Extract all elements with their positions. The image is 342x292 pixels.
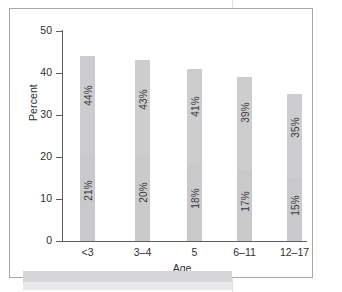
redacted-caption-bar-shadow — [23, 282, 232, 290]
y-axis-title: Percent — [27, 84, 39, 121]
bar-label-lower: 17% — [239, 191, 250, 212]
bar-label-total: 44% — [82, 85, 93, 106]
x-tick-label-6-11: 6–11 — [233, 246, 256, 259]
bar-label-total: 39% — [239, 102, 250, 123]
bar-age-5[interactable]: 41% 18% — [187, 69, 202, 241]
bar-segment-upper: 41% — [187, 69, 202, 166]
bar-age-12-17[interactable]: 35% 15% — [287, 94, 302, 241]
y-tick-40: 40 — [56, 73, 63, 74]
bar-segment-lower: 21% — [80, 153, 95, 241]
x-axis-line — [62, 241, 307, 242]
y-tick-label-50: 50 — [40, 24, 52, 37]
y-tick-0: 0 — [56, 241, 63, 242]
bar-label-lower: 15% — [289, 195, 300, 216]
bar-segment-upper: 35% — [287, 94, 302, 178]
y-tick-label-10: 10 — [40, 192, 52, 205]
bar-age-6-11[interactable]: 39% 17% — [237, 77, 252, 241]
x-tick-label-3-4: 3–4 — [134, 246, 152, 259]
bar-label-lower: 20% — [137, 182, 148, 203]
bar-age-3-4[interactable]: 43% 20% — [135, 60, 150, 241]
bar-segment-upper: 44% — [80, 56, 95, 153]
bar-label-lower: 21% — [82, 180, 93, 201]
x-tick-label-12-17: 12–17 — [280, 246, 309, 259]
bar-label-total: 43% — [137, 90, 148, 111]
bar-label-lower: 18% — [189, 189, 200, 210]
y-tick-20: 20 — [56, 157, 63, 158]
bar-segment-lower: 18% — [187, 165, 202, 241]
bar-label-total: 41% — [189, 96, 200, 117]
bar-segment-lower: 20% — [135, 157, 150, 241]
bar-segment-lower: 17% — [237, 170, 252, 241]
x-tick-label-5: 5 — [192, 246, 198, 259]
redacted-caption-bar — [23, 271, 232, 282]
y-tick-label-30: 30 — [40, 108, 52, 121]
y-axis-line — [62, 30, 63, 242]
y-tick-label-20: 20 — [40, 150, 52, 163]
y-tick-10: 10 — [56, 199, 63, 200]
bar-segment-upper: 39% — [237, 77, 252, 169]
y-tick-30: 30 — [56, 115, 63, 116]
y-tick-label-40: 40 — [40, 66, 52, 79]
y-tick-50: 50 — [56, 31, 63, 32]
bar-segment-upper: 43% — [135, 60, 150, 157]
x-tick-label-lt3: <3 — [82, 246, 94, 259]
figure-frame: Percent 50 40 30 20 10 0 44% 21% 43% 20% — [9, 8, 313, 278]
bar-age-lt3[interactable]: 44% 21% — [80, 56, 95, 241]
bar-segment-lower: 15% — [287, 178, 302, 241]
bar-label-total: 35% — [289, 117, 300, 138]
y-tick-label-0: 0 — [46, 234, 52, 247]
